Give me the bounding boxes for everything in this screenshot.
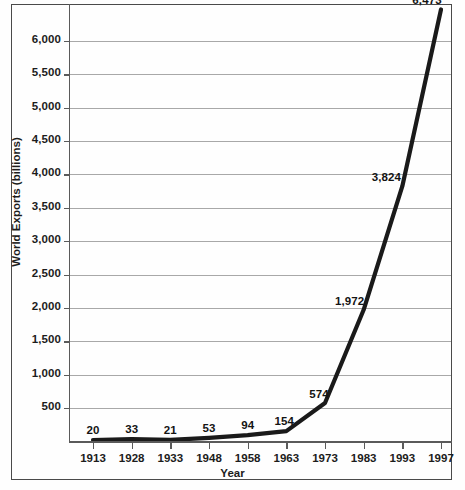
x-axis-tick-label: 1958 — [235, 452, 261, 464]
data-point-label: 1,972 — [335, 295, 364, 307]
y-axis-tick-mark — [64, 408, 70, 409]
y-axis-tick-label: 5,000 — [32, 100, 61, 112]
y-axis-tick-label: 3,500 — [32, 200, 61, 212]
x-axis-tick-mark — [441, 442, 442, 449]
x-axis-tick-mark — [286, 442, 287, 449]
x-axis-tick-label: 1997 — [428, 452, 454, 464]
y-axis-tick-mark — [64, 108, 70, 109]
x-axis-tick-label: 1933 — [158, 452, 184, 464]
data-point-label: 154 — [275, 415, 295, 427]
y-axis-tick-mark — [64, 41, 70, 42]
y-axis-tick-label: 3,000 — [32, 233, 61, 245]
y-axis-tick-mark — [64, 375, 70, 376]
chart-figure: World Exports (billions) 6,0005,5005,000… — [0, 0, 465, 490]
x-axis-tick-label: 1963 — [274, 452, 300, 464]
y-axis-tick-label: 2,000 — [32, 300, 61, 312]
x-axis-tick-mark — [132, 442, 133, 449]
y-axis-tick-label: 5,500 — [32, 66, 61, 78]
x-axis-tick-label: 1983 — [351, 452, 377, 464]
x-axis-tick-mark — [209, 442, 210, 449]
data-point-label: 53 — [203, 422, 216, 434]
y-axis-tick-label: 1,500 — [32, 333, 61, 345]
y-axis-tick-mark — [64, 308, 70, 309]
data-point-label: 33 — [125, 423, 138, 435]
data-point-label: 94 — [241, 419, 254, 431]
x-axis-tick-label: 1913 — [80, 452, 106, 464]
x-axis-tick-mark — [325, 442, 326, 449]
y-axis-tick-mark — [64, 141, 70, 142]
y-axis-tick-label: 6,000 — [32, 33, 61, 45]
data-point-label: 574 — [309, 388, 329, 400]
x-axis-tick-label: 1973 — [312, 452, 338, 464]
y-axis-tick-labels: 6,0005,5005,0004,5004,0003,5003,0002,500… — [0, 0, 61, 470]
x-axis-tick-label: 1948 — [196, 452, 222, 464]
x-axis-tick-mark — [248, 442, 249, 449]
data-point-label: 6,473 — [412, 0, 441, 6]
x-axis-tick-label: 1928 — [119, 452, 145, 464]
plot-area — [70, 5, 451, 442]
x-axis-line — [69, 441, 452, 443]
y-axis-tick-mark — [64, 275, 70, 276]
y-axis-tick-label: 2,500 — [32, 267, 61, 279]
data-point-label: 20 — [87, 424, 100, 436]
y-axis-tick-mark — [64, 241, 70, 242]
y-axis-tick-label: 4,000 — [32, 166, 61, 178]
y-axis-tick-mark — [64, 74, 70, 75]
x-axis-tick-mark — [364, 442, 365, 449]
x-axis-tick-mark — [170, 442, 171, 449]
y-axis-tick-label: 500 — [42, 400, 62, 412]
data-point-label: 21 — [164, 424, 177, 436]
y-axis-tick-mark — [64, 208, 70, 209]
y-axis-tick-mark — [64, 341, 70, 342]
data-point-label: 3,824 — [372, 171, 401, 183]
y-axis-tick-mark — [64, 174, 70, 175]
x-axis-tick-label: 1993 — [390, 452, 416, 464]
y-axis-tick-label: 1,000 — [32, 367, 61, 379]
x-axis-title: Year — [0, 467, 465, 479]
y-axis-tick-label: 4,500 — [32, 133, 61, 145]
series-line-world-exports — [70, 5, 451, 442]
x-axis-tick-mark — [402, 442, 403, 449]
x-axis-tick-mark — [93, 442, 94, 449]
